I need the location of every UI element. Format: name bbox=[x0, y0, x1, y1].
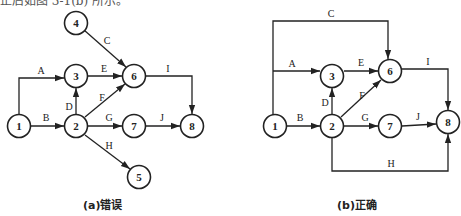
edge-label: B bbox=[297, 112, 304, 123]
node-b-8: 8 bbox=[437, 111, 460, 134]
edge-b-J bbox=[402, 124, 436, 126]
svg-text:8: 8 bbox=[445, 116, 451, 128]
edge-label: I bbox=[426, 56, 429, 67]
edge-label: J bbox=[160, 112, 164, 123]
diagram-b: C A B D E F G H I J 1 2 3 6 7 8 bbox=[264, 8, 460, 171]
edge-label: F bbox=[99, 92, 105, 103]
edge-label: G bbox=[105, 112, 112, 123]
network-diagrams: A B C D E F G H I J 1 2 3 4 5 6 7 8 bbox=[0, 0, 461, 216]
edge-label: I bbox=[166, 63, 169, 74]
edge-label: G bbox=[361, 112, 368, 123]
node-b-6: 6 bbox=[379, 60, 402, 83]
edge-b-I bbox=[402, 69, 448, 110]
node-a-4: 4 bbox=[65, 12, 88, 35]
svg-text:1: 1 bbox=[16, 120, 22, 132]
edge-label: C bbox=[328, 8, 335, 19]
node-b-3: 3 bbox=[321, 65, 344, 88]
svg-text:6: 6 bbox=[131, 70, 137, 82]
edge-label: F bbox=[359, 90, 365, 101]
svg-text:6: 6 bbox=[387, 65, 393, 77]
node-a-1: 1 bbox=[8, 115, 31, 138]
node-b-1: 1 bbox=[264, 115, 287, 138]
edge-a-I bbox=[146, 76, 192, 114]
edge-label: C bbox=[104, 35, 111, 46]
edge-label: H bbox=[387, 158, 394, 169]
node-a-8: 8 bbox=[181, 115, 204, 138]
edge-label: E bbox=[358, 57, 364, 68]
node-a-6: 6 bbox=[123, 65, 146, 88]
svg-text:7: 7 bbox=[387, 120, 393, 132]
svg-text:2: 2 bbox=[73, 120, 79, 132]
node-a-5: 5 bbox=[128, 166, 151, 189]
edge-label: J bbox=[416, 111, 420, 122]
svg-text:2: 2 bbox=[329, 120, 335, 132]
edge-label: D bbox=[65, 101, 72, 112]
edge-label: A bbox=[37, 65, 45, 76]
edge-label: E bbox=[101, 63, 107, 74]
node-b-2: 2 bbox=[321, 115, 344, 138]
edge-label: D bbox=[321, 97, 328, 108]
svg-text:4: 4 bbox=[73, 17, 79, 29]
edge-label: B bbox=[43, 112, 50, 123]
svg-text:3: 3 bbox=[73, 70, 79, 82]
svg-text:1: 1 bbox=[272, 120, 278, 132]
edge-label: H bbox=[105, 140, 112, 151]
node-b-7: 7 bbox=[379, 115, 402, 138]
node-a-7: 7 bbox=[123, 115, 146, 138]
svg-text:3: 3 bbox=[329, 70, 335, 82]
node-a-2: 2 bbox=[65, 115, 88, 138]
caption-b: (b)正确 bbox=[337, 196, 377, 212]
edge-label: A bbox=[288, 58, 296, 69]
svg-text:7: 7 bbox=[131, 120, 137, 132]
svg-text:8: 8 bbox=[189, 120, 195, 132]
node-a-3: 3 bbox=[65, 65, 88, 88]
caption-a: (a)错误 bbox=[83, 196, 122, 212]
diagram-a: A B C D E F G H I J 1 2 3 4 5 6 7 8 bbox=[8, 12, 204, 189]
edge-a-A bbox=[19, 78, 64, 115]
svg-text:5: 5 bbox=[136, 171, 142, 183]
